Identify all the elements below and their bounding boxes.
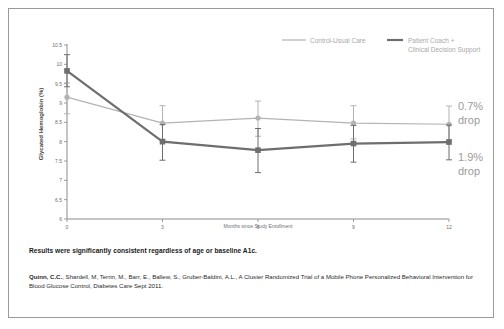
annotation-intervention-drop-value: 1.9% xyxy=(458,151,483,163)
result-statement: Results were significantly consistent re… xyxy=(29,247,479,254)
x-tick-label: 9 xyxy=(352,224,355,230)
chart-legend: Control-Usual CarePatient Coach +Clinica… xyxy=(282,37,480,54)
y-tick-label: 8 xyxy=(59,139,62,145)
chart-annotations: 0.7%drop1.9%drop xyxy=(458,100,483,177)
annotation-intervention-drop-word: drop xyxy=(458,165,480,177)
y-tick-label: 10 xyxy=(56,61,62,67)
annotation-intervention-drop: 1.9%drop xyxy=(458,151,483,177)
slide-frame: 66.577.588.599.51010.5 036912 Glycated H… xyxy=(8,8,494,318)
data-point xyxy=(255,115,260,120)
data-point xyxy=(446,139,452,145)
hba1c-line-chart: 66.577.588.599.51010.5 036912 Glycated H… xyxy=(9,9,495,231)
data-series-layer xyxy=(64,55,452,173)
y-tick-label: 10.5 xyxy=(52,42,62,48)
footer-block: Results were significantly consistent re… xyxy=(29,247,479,291)
annotation-control-drop-value: 0.7% xyxy=(458,100,483,112)
x-tick-label: 0 xyxy=(66,224,69,230)
y-tick-label: 7.5 xyxy=(55,158,62,164)
y-tick-label: 6 xyxy=(59,216,62,222)
data-point xyxy=(64,95,69,100)
y-tick-label: 9 xyxy=(59,100,62,106)
y-tick-label: 7 xyxy=(59,177,62,183)
legend-item-control: Control-Usual Care xyxy=(282,37,366,44)
x-axis-label: Months since Study Enrollment xyxy=(224,223,294,229)
legend-label-control: Control-Usual Care xyxy=(310,37,366,44)
y-tick-label: 8.5 xyxy=(55,119,62,125)
y-axis-label: Glycated Hemoglobin (%) xyxy=(38,88,44,161)
data-point xyxy=(255,147,261,153)
legend-label-intervention-line1: Patient Coach + xyxy=(408,37,455,44)
y-tick-label: 6.5 xyxy=(55,197,62,203)
x-tick-label: 3 xyxy=(161,224,164,230)
data-point xyxy=(160,139,166,145)
chart-area: 66.577.588.599.51010.5 036912 Glycated H… xyxy=(9,9,495,231)
y-tick-label: 9.5 xyxy=(55,81,62,87)
data-point xyxy=(64,68,70,74)
citation-rest: , Shardell, M, Terrin, M., Barr, E., Bal… xyxy=(29,273,473,289)
legend-item-intervention: Patient Coach +Clinical Decision Support xyxy=(387,37,480,54)
legend-label-intervention-line2: Clinical Decision Support xyxy=(408,46,480,54)
x-tick-label: 12 xyxy=(446,224,452,230)
annotation-control-drop: 0.7%drop xyxy=(458,100,483,126)
citation-authors: Quinn, C.C. xyxy=(29,273,62,280)
annotation-control-drop-word: drop xyxy=(458,114,480,126)
citation: Quinn, C.C., Shardell, M, Terrin, M., Ba… xyxy=(29,272,479,291)
data-point xyxy=(351,141,357,147)
